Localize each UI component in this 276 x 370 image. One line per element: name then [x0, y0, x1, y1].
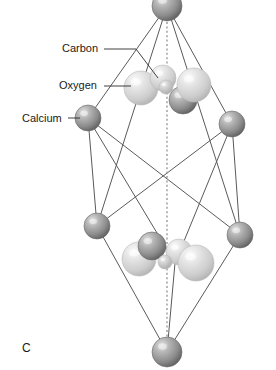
atom-calcium [152, 0, 182, 21]
atom-highlight [185, 253, 196, 261]
atom-highlight [80, 110, 88, 116]
atom-highlight [144, 238, 152, 244]
atom-carbon [158, 255, 172, 269]
atom-calcium [84, 213, 110, 239]
label-carbon: Carbon [62, 42, 98, 54]
atom-highlight [89, 218, 97, 224]
crystal-structure-figure: CarbonOxygenCalcium C [0, 0, 276, 370]
atom-sphere-ca-right-upper [219, 111, 245, 137]
atom-calcium [227, 222, 253, 248]
atom-sphere-ca-top [152, 0, 182, 21]
unit-cell-edges [88, 6, 240, 352]
atom-highlight [129, 249, 139, 256]
cell-edge [88, 6, 167, 118]
label-calcium: Calcium [22, 112, 62, 124]
atom-sphere-c-upper [159, 80, 173, 94]
atom-sphere-c-lower [158, 255, 172, 269]
atoms-front-layer [75, 0, 253, 367]
atom-sphere-ca-left-lower [84, 213, 110, 239]
atom-highlight [158, 343, 167, 350]
atom-highlight [224, 116, 232, 122]
atom-sphere-ca-right-lower [227, 222, 253, 248]
label-oxygen: Oxygen [59, 79, 97, 91]
atom-highlight [131, 78, 141, 85]
cell-edge [97, 6, 167, 226]
atom-highlight [232, 227, 240, 233]
panel-letter: C [22, 341, 31, 355]
cell-edge [232, 124, 240, 235]
atom-highlight [184, 75, 194, 82]
crystal-structure-svg: CarbonOxygenCalcium C [0, 0, 276, 370]
cell-edge [88, 118, 97, 226]
cell-edge [97, 124, 232, 226]
atom-sphere-o-upper-right [177, 68, 211, 102]
atom-carbon [159, 80, 173, 94]
atom-sphere-ca-bottom [152, 337, 182, 367]
atom-highlight [161, 258, 165, 261]
atom-calcium [152, 337, 182, 367]
atom-calcium [219, 111, 245, 137]
atom-sphere-o-lower-right [178, 245, 214, 281]
atom-oxygen [177, 68, 211, 102]
atom-highlight [162, 83, 166, 86]
atom-oxygen [178, 245, 214, 281]
atom-highlight [171, 244, 179, 250]
